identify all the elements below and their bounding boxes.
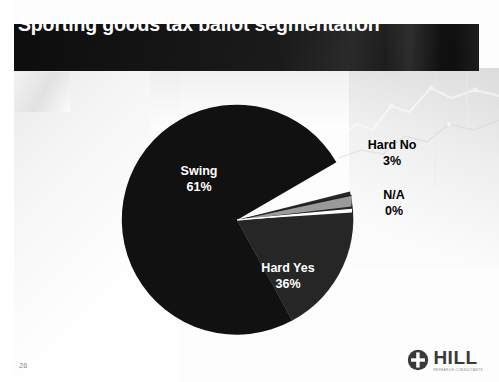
pie-label-na-value: 0% <box>366 204 422 220</box>
pie-label-hard-no: Hard No 3% <box>356 138 428 169</box>
pie-label-swing: Swing 61% <box>156 164 242 195</box>
pie-label-hard-yes-name: Hard Yes <box>261 261 314 275</box>
pie-label-na: N/A 0% <box>366 188 422 219</box>
pie-chart: Swing 61% Hard Yes 36% Hard No 3% N/A 0% <box>0 0 499 382</box>
pie-label-swing-value: 61% <box>156 180 242 196</box>
presentation-slide: Sporting goods tax ballot segmentation S… <box>0 0 499 382</box>
hill-wordmark: HILL <box>433 348 477 367</box>
pie-label-na-name: N/A <box>383 188 405 202</box>
pie-chart-svg <box>0 0 499 382</box>
hill-logo: HILL RESEARCH CONSULTANTS <box>407 348 483 372</box>
hill-circle-mark-icon <box>407 349 429 371</box>
page-number: 26 <box>19 361 27 370</box>
pie-label-swing-name: Swing <box>181 164 218 178</box>
pie-label-hard-yes: Hard Yes 36% <box>240 261 336 292</box>
pie-label-hard-no-name: Hard No <box>368 138 417 152</box>
pie-label-hard-no-value: 3% <box>356 154 428 170</box>
hill-tagline: RESEARCH CONSULTANTS <box>433 369 483 372</box>
pie-label-hard-yes-value: 36% <box>240 277 336 293</box>
